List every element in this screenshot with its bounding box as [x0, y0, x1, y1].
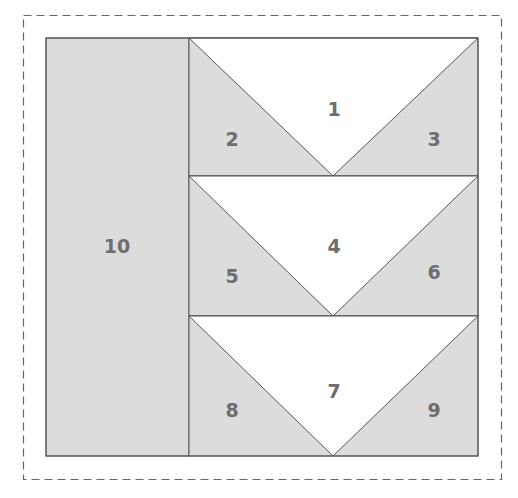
label-piece-8: 8 — [225, 399, 238, 421]
label-piece-10: 10 — [104, 235, 130, 257]
label-piece-2: 2 — [225, 128, 238, 150]
label-piece-7: 7 — [327, 380, 340, 402]
label-piece-5: 5 — [225, 265, 238, 287]
label-piece-1: 1 — [327, 98, 340, 120]
label-piece-6: 6 — [427, 261, 440, 283]
label-piece-4: 4 — [327, 235, 340, 257]
label-piece-3: 3 — [427, 128, 440, 150]
quilt-block-diagram: 1 2 3 4 5 6 7 8 9 10 — [0, 0, 518, 498]
label-piece-9: 9 — [427, 399, 440, 421]
